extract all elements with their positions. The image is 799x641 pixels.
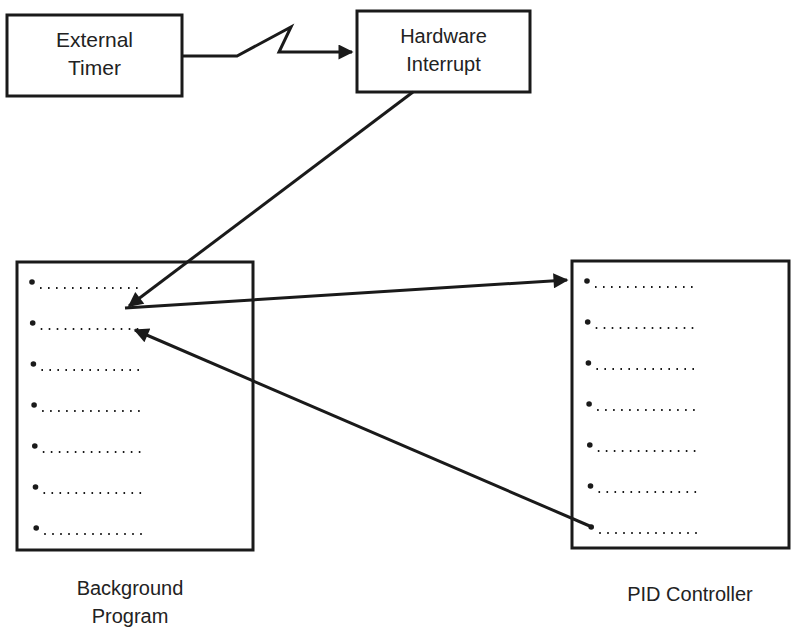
pid-controller-list-item bbox=[586, 360, 695, 369]
bullet-icon bbox=[588, 483, 594, 489]
background-program-caption: Background Program bbox=[40, 574, 220, 630]
background-program-list-item bbox=[31, 402, 140, 411]
bullet-icon bbox=[30, 320, 36, 326]
background-program-list-item bbox=[31, 361, 140, 370]
background-program-caption-line1: Background bbox=[40, 574, 220, 602]
external-timer-label: External Timer bbox=[7, 26, 182, 82]
pid-controller-caption-text: PID Controller bbox=[590, 580, 790, 608]
bullet-icon bbox=[587, 442, 593, 448]
background-program-box bbox=[17, 262, 253, 550]
bullet-icon bbox=[29, 279, 35, 285]
background-program-list-item bbox=[32, 443, 141, 452]
bullet-icon bbox=[586, 360, 592, 366]
pid-controller-list-item bbox=[588, 483, 697, 492]
pid-controller-list bbox=[584, 278, 697, 533]
background-program-list-item bbox=[33, 484, 142, 493]
background-program-list-item bbox=[30, 320, 139, 329]
pid-to-background-return-arrow bbox=[135, 330, 592, 527]
bullet-icon bbox=[33, 484, 39, 490]
hardware-interrupt-line1: Hardware bbox=[357, 22, 530, 50]
background-program-list bbox=[29, 279, 142, 534]
pid-controller-box bbox=[572, 261, 789, 548]
pid-controller-caption: PID Controller bbox=[590, 580, 790, 608]
lightning-connector bbox=[182, 27, 352, 56]
diagram-canvas bbox=[0, 0, 799, 641]
background-program-caption-line2: Program bbox=[40, 602, 220, 630]
bullet-icon bbox=[32, 443, 38, 449]
bullet-icon bbox=[31, 402, 37, 408]
external-timer-line1: External bbox=[7, 26, 182, 54]
bullet-icon bbox=[585, 319, 591, 325]
bullet-icon bbox=[584, 278, 590, 284]
hardware-interrupt-label: Hardware Interrupt bbox=[357, 22, 530, 78]
pid-controller-list-item bbox=[586, 401, 695, 410]
bullet-icon bbox=[33, 525, 39, 531]
external-timer-line2: Timer bbox=[7, 54, 182, 82]
pid-controller-list-item bbox=[584, 278, 693, 287]
background-program-list-item bbox=[33, 525, 142, 534]
interrupt-to-background-arrow bbox=[129, 92, 413, 306]
background-program-list-item bbox=[29, 279, 138, 288]
pid-controller-list-item bbox=[585, 319, 694, 328]
background-to-pid-arrow bbox=[125, 280, 567, 308]
bullet-icon bbox=[586, 401, 592, 407]
hardware-interrupt-line2: Interrupt bbox=[357, 50, 530, 78]
bullet-icon bbox=[31, 361, 37, 367]
pid-controller-list-item bbox=[587, 442, 696, 451]
pid-controller-list-item bbox=[588, 524, 697, 533]
